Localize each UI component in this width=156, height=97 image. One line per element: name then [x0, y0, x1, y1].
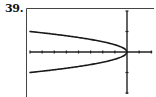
graph-window	[0, 0, 156, 97]
upper-branch-curve	[30, 32, 127, 53]
lower-branch-curve	[30, 52, 127, 73]
axes	[30, 11, 152, 94]
